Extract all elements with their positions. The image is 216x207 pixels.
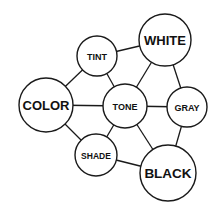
node-label: TONE xyxy=(113,102,138,112)
node-black: BLACK xyxy=(140,145,196,201)
node-white: WHITE xyxy=(139,14,191,66)
node-gray: GRAY xyxy=(167,87,207,127)
node-tone: TONE xyxy=(103,84,147,128)
node-color: COLOR xyxy=(19,78,73,132)
node-label: SHADE xyxy=(81,151,111,161)
color-tone-diagram: WHITETINTCOLORTONEGRAYSHADEBLACK xyxy=(0,0,216,207)
node-shade: SHADE xyxy=(75,134,117,176)
node-label: WHITE xyxy=(144,33,186,48)
nodes: WHITETINTCOLORTONEGRAYSHADEBLACK xyxy=(19,14,207,201)
node-label: TINT xyxy=(87,52,107,62)
node-label: BLACK xyxy=(144,166,191,181)
node-label: COLOR xyxy=(23,98,71,113)
node-tint: TINT xyxy=(77,36,117,76)
node-label: GRAY xyxy=(174,103,199,113)
